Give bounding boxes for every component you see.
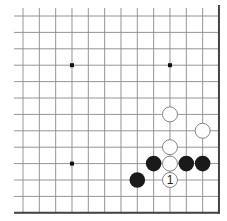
- move-number: 1: [167, 173, 174, 187]
- white-stone-numbered: 1: [162, 173, 177, 188]
- black-stone-icon: [146, 156, 162, 172]
- black-stone-icon: [195, 156, 211, 172]
- grid-lines: [14, 8, 219, 213]
- go-board: 1: [0, 0, 227, 221]
- board-edges: [14, 5, 220, 214]
- star-point-icon: [168, 63, 172, 67]
- white-stone-icon: [162, 140, 177, 155]
- white-stone-icon: [162, 107, 177, 122]
- black-stone: [130, 172, 146, 188]
- black-stone: [146, 156, 162, 172]
- black-stone-icon: [130, 172, 146, 188]
- white-stone: [162, 140, 177, 155]
- black-stone: [195, 156, 211, 172]
- star-point-icon: [70, 63, 74, 67]
- black-stone-icon: [179, 156, 195, 172]
- white-stone-icon: [195, 123, 210, 138]
- white-stone: [162, 107, 177, 122]
- white-stone-icon: [162, 156, 177, 171]
- white-stone: [195, 123, 210, 138]
- white-stone: [162, 156, 177, 171]
- star-point-icon: [70, 162, 74, 166]
- black-stone: [179, 156, 195, 172]
